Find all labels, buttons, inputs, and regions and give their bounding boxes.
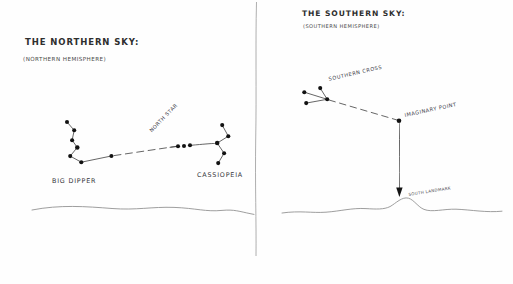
star-dot [182,144,186,148]
northern-sky-title: THE NORTHERN SKY: [25,38,139,48]
cassiopeia-label: CASSIOPEIA [197,172,243,179]
drop-line-arrowhead [396,188,402,198]
northern-horizon-line [32,206,254,214]
star-dot [222,151,226,155]
star-dot [188,143,192,147]
star-dot [109,154,113,158]
star-dot [304,101,308,105]
southern-sky-subtitle: (SOUTHERN HEMISPHERE) [303,24,380,30]
imaginary-point-dot [397,119,402,124]
north-star-left-tail [170,147,176,148]
pointer-line-to-north-star [114,146,176,155]
star-dot [176,144,180,148]
star-dot [79,160,83,164]
star-dot [65,120,69,124]
star-dot [318,86,322,90]
star-dot [75,145,80,150]
pointer-line-to-imaginary-point [329,100,397,120]
star-dot [68,154,72,158]
star-dot [226,134,230,138]
star-dot [302,90,306,94]
southern-cross-lines [304,88,327,103]
star-dot [215,141,220,146]
panel-divider [256,2,257,256]
southern-sky-title: THE SOUTHERN SKY: [302,10,406,19]
star-dot [216,161,220,165]
southern-horizon-line [282,198,502,213]
cassiopeia-stars [215,123,230,165]
star-dot [220,123,224,127]
north-star-cluster [176,143,192,148]
big-dipper-label: BIG DIPPER [52,178,96,185]
big-dipper-lines [67,122,111,162]
sketch-canvas: THE NORTHERN SKY: (NORTHERN HEMISPHERE) … [0,0,513,284]
northern-sky-subtitle: (NORTHERN HEMISPHERE) [23,56,106,62]
north-star-to-cassiopeia-line [192,143,217,145]
star-dot [325,97,329,101]
star-dot [72,128,76,132]
star-dot [70,138,74,142]
